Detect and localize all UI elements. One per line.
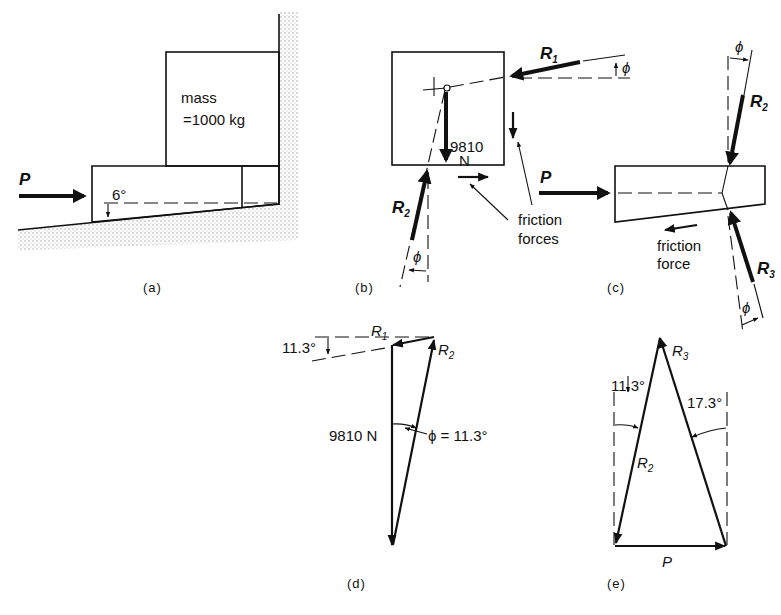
r2-label: R2 (392, 198, 410, 219)
r3-label-e: R3 (672, 342, 689, 362)
r2-arrow-icon-c (730, 95, 743, 163)
wedge-angle-label: 6° (112, 186, 126, 203)
panel-c: P ϕ R2 ϕ R3 friction force (c) (539, 38, 775, 333)
wall-hatch (279, 12, 298, 240)
caption-b: (b) (355, 280, 374, 295)
mass-label: mass (181, 89, 217, 106)
friction-label-2: forces (518, 230, 559, 247)
r1-label-d: R1 (371, 322, 387, 342)
phi-label-2: ϕ (413, 248, 421, 265)
phi-label-c: ϕ (735, 38, 743, 55)
friction-label-c2: force (657, 255, 690, 272)
phi-label: ϕ (622, 59, 630, 76)
weight-unit: N (459, 152, 470, 169)
phi-label-d: ϕ = 11.3° (428, 427, 488, 444)
r1-vector-icon (393, 337, 434, 345)
caption-e: (e) (607, 576, 626, 591)
r2-label-e: R2 (637, 454, 654, 474)
wedge-fbd (615, 166, 765, 222)
mass-block (166, 52, 279, 166)
r1-arrow-icon (512, 62, 580, 76)
r1-label: R1 (540, 44, 558, 65)
panel-a: P mass =1000 kg 6° (a) (18, 12, 298, 295)
r2-vector-icon-e (616, 338, 660, 543)
caption-c: (c) (607, 280, 625, 295)
friction-label: friction (518, 211, 562, 228)
r2-label-c: R2 (750, 92, 768, 113)
angle-right-label: 17.3° (687, 394, 722, 411)
r3-vector-icon (660, 338, 726, 546)
r3-label: R3 (757, 259, 775, 280)
caption-a: (a) (143, 280, 162, 295)
panel-d: 11.3° R1 R2 9810 N ϕ = 11.3° (d) (282, 322, 488, 591)
friction-label-c: friction (657, 237, 701, 254)
mass-value: =1000 kg (183, 111, 245, 128)
r2-arrow-icon (412, 172, 427, 240)
friction-arrow-left-icon (665, 225, 697, 230)
panel-b: R1 ϕ 9810 N R2 ϕ friction forces (b) (355, 44, 630, 295)
free-body-diagram: P mass =1000 kg 6° (a) R1 ϕ 9810 N R2 ϕ (0, 0, 781, 615)
r2-label-d: R2 (438, 341, 455, 361)
force-p-label: P (19, 170, 31, 189)
angle-label-d: 11.3° (282, 339, 316, 356)
caption-d: (d) (347, 576, 366, 591)
force-p-label-c: P (540, 168, 552, 187)
p-label-e: P (662, 553, 672, 570)
r3-arrow-icon (731, 213, 753, 282)
phi-label-c2: ϕ (742, 299, 750, 316)
angle-left-label: 11.3° (611, 377, 645, 394)
ground-hatch (18, 205, 298, 250)
panel-e: R3 R2 11.3° 17.3° P (e) (607, 338, 727, 591)
weight-label-d: 9810 N (329, 427, 377, 444)
